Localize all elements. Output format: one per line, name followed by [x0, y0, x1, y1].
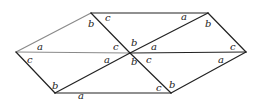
angle-label-a: a [151, 41, 157, 52]
angle-label-b: b [131, 56, 137, 67]
edge-L-TL [16, 13, 91, 52]
edge-TR-R [208, 13, 246, 52]
edges-group [16, 13, 246, 93]
angle-label-a: a [181, 11, 187, 22]
angle-label-c: c [156, 82, 162, 93]
angle-label-a: a [37, 41, 43, 52]
angle-label-a: a [78, 90, 84, 100]
angle-label-a: a [104, 54, 110, 65]
edge-BL-C [55, 53, 130, 93]
angle-label-a: a [218, 54, 224, 65]
edge-L-BL [16, 52, 55, 93]
angle-label-c: c [146, 54, 152, 65]
angle-label-c: c [105, 12, 111, 23]
angle-label-c: c [113, 41, 119, 52]
edge-BR-R [171, 52, 246, 93]
edge-L-C [16, 52, 130, 53]
labels-group: bcaccababbacabcacb [27, 11, 236, 100]
angle-label-b: b [88, 18, 94, 29]
angle-label-c: c [27, 54, 33, 65]
angle-label-c: c [230, 41, 236, 52]
parallelogram-tiling-diagram: bcaccababbacabcacb [0, 0, 259, 100]
edge-C-TR [130, 13, 208, 53]
angle-label-b: b [205, 18, 211, 29]
diagram-canvas: bcaccababbacabcacb [0, 0, 259, 100]
angle-label-b: b [52, 80, 58, 91]
angle-label-b: b [169, 79, 175, 90]
angle-label-b: b [131, 37, 137, 48]
edge-C-R [130, 52, 246, 53]
